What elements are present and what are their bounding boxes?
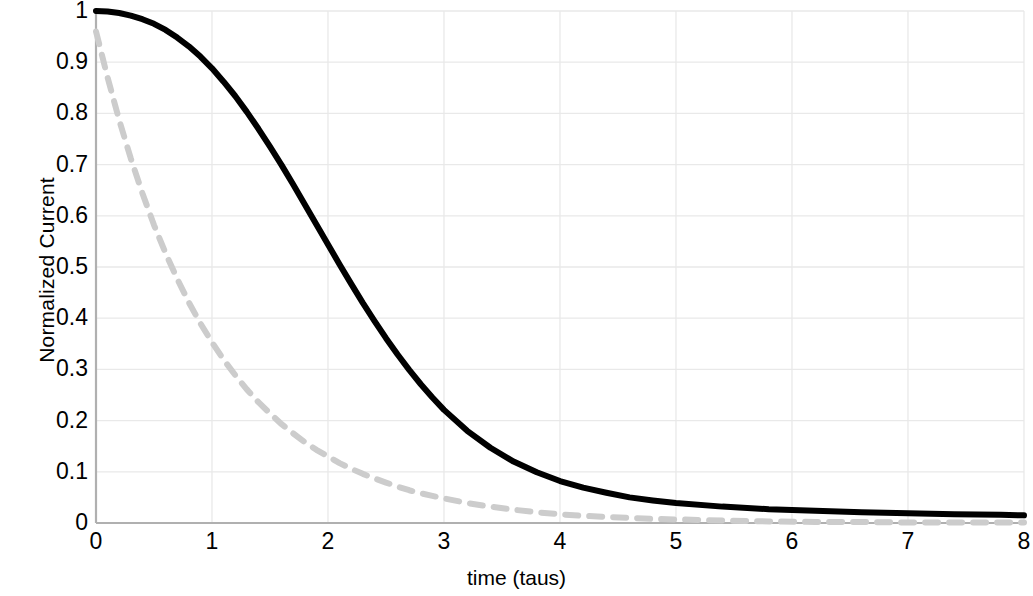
x-axis-tick-labels: 012345678 bbox=[0, 0, 1033, 596]
x-axis-title: time (taus) bbox=[0, 566, 1033, 590]
x-tick-label: 7 bbox=[878, 530, 938, 553]
x-tick-label: 2 bbox=[298, 530, 358, 553]
x-tick-label: 3 bbox=[414, 530, 474, 553]
x-tick-label: 4 bbox=[530, 530, 590, 553]
chart-container: Normalized Current 00.10.20.30.40.50.60.… bbox=[0, 0, 1033, 596]
x-tick-label: 1 bbox=[182, 530, 242, 553]
x-tick-label: 6 bbox=[762, 530, 822, 553]
x-tick-label: 0 bbox=[66, 530, 126, 553]
x-tick-label: 5 bbox=[646, 530, 706, 553]
x-tick-label: 8 bbox=[994, 530, 1033, 553]
